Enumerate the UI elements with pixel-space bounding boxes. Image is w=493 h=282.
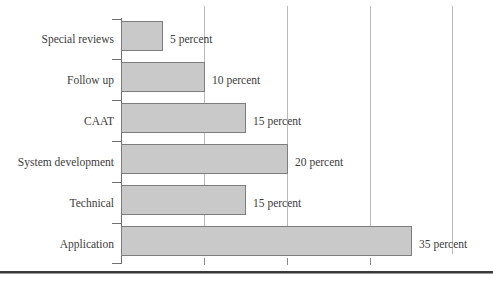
y-tick-3 [112,141,122,142]
value-label-application: 35 percent [419,238,467,250]
value-label-follow-up: 10 percent [212,74,260,86]
bar-caat [121,103,246,133]
x-tick-20 [287,258,288,265]
bottom-divider-shadow [0,273,493,274]
x-tick-30 [370,258,371,265]
y-tick-1 [112,59,122,60]
category-label-technical: Technical [69,197,114,209]
bar-system-development [121,144,288,174]
y-tick-2 [112,100,122,101]
value-label-system-development: 20 percent [295,156,343,168]
category-label-system-development: System development [18,156,114,168]
gridline-30 [370,6,371,254]
y-tick-5 [112,223,122,224]
bar-follow-up [121,62,205,92]
category-label-application: Application [60,238,114,250]
bar-special-reviews [121,21,163,51]
bar-chart: Special reviews Follow up CAAT System de… [0,0,493,282]
gridline-20 [287,6,288,254]
value-label-technical: 15 percent [253,197,301,209]
x-tick-10 [204,258,205,265]
gridline-40 [452,6,453,254]
category-label-special-reviews: Special reviews [42,33,115,45]
bar-application [121,226,412,256]
value-label-caat: 15 percent [253,115,301,127]
value-label-special-reviews: 5 percent [170,33,212,45]
y-tick-0 [112,19,122,20]
y-tick-4 [112,182,122,183]
y-tick-6 [112,263,122,264]
bar-technical [121,185,246,215]
category-label-follow-up: Follow up [67,74,114,86]
category-label-caat: CAAT [84,115,114,127]
